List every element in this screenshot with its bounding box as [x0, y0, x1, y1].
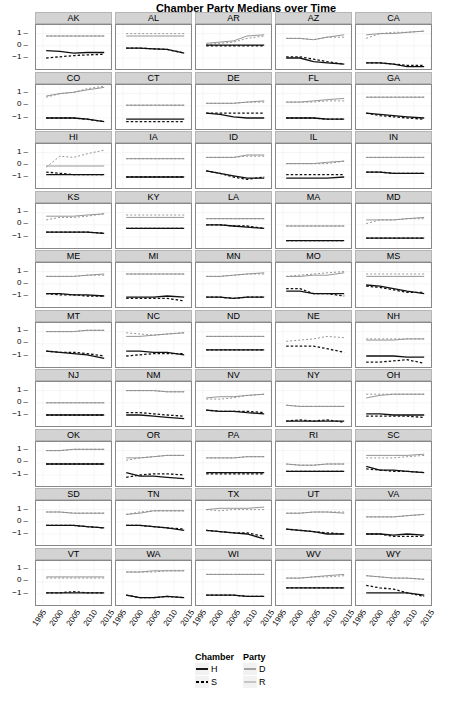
y-tick-label: −1 – [6, 528, 28, 537]
facet-panel-ar: AR [195, 12, 272, 70]
y-tick-label: 0 – [6, 337, 28, 346]
y-tick-label: 1 – [6, 28, 28, 37]
x-tick-label: 2000 [287, 608, 305, 628]
plot-area [35, 441, 112, 487]
plot-area [355, 203, 432, 249]
x-tick-label: 2000 [207, 608, 225, 628]
plot-area [115, 262, 192, 308]
x-tick-label: 2010 [402, 608, 420, 628]
facet-strip-label: TX [195, 488, 272, 500]
plot-area [195, 560, 272, 606]
y-tick-label: −1 – [6, 52, 28, 61]
plot-area [115, 381, 192, 427]
facet-strip-label: MT [35, 310, 112, 322]
facet-strip-label: NM [115, 369, 192, 381]
plot-area [355, 500, 432, 546]
facet-strip-label: CO [35, 72, 112, 84]
plot-area [275, 143, 352, 189]
series-hd [126, 415, 184, 419]
facet-panel-nh: NH [355, 310, 432, 368]
series-sr [286, 336, 344, 341]
plot-area [195, 441, 272, 487]
x-tick-label: 2010 [322, 608, 340, 628]
plot-area [275, 262, 352, 308]
y-tick-label: 1 – [6, 266, 28, 275]
plot-area [195, 24, 272, 70]
plot-area [35, 262, 112, 308]
plot-area [355, 24, 432, 70]
series-sr [286, 37, 344, 40]
plot-area [35, 24, 112, 70]
facet-panel-nm: NM [115, 369, 192, 427]
legend-item-d: D [243, 662, 266, 675]
series-sr [206, 274, 264, 276]
facet-panel-ga: GA [355, 72, 432, 130]
x-tick-label: 2000 [127, 608, 145, 628]
x-tick-label: 2005 [304, 608, 322, 628]
facet-strip-label: VT [35, 548, 112, 560]
series-sr [286, 575, 344, 577]
facet-panel-ks: KS [35, 191, 112, 249]
y-tick-label: 1 – [6, 385, 28, 394]
x-tick-label: 2000 [367, 608, 385, 628]
plot-area [195, 143, 272, 189]
facet-strip-label: NE [275, 310, 352, 322]
facet-panel-az: AZ [275, 12, 352, 70]
plot-area [35, 500, 112, 546]
plot-area [195, 203, 272, 249]
facet-strip-label: WY [355, 548, 432, 560]
facet-panel-ok: OK [35, 429, 112, 487]
facet-panel-nv: NV [195, 369, 272, 427]
plot-area [275, 500, 352, 546]
x-tick-label: 2005 [144, 608, 162, 628]
facet-panel-ak: AK [35, 12, 112, 70]
facet-strip-label: LA [195, 191, 272, 203]
facet-strip-label: NH [355, 310, 432, 322]
facet-panel-il: IL [275, 131, 352, 189]
x-tick-label: 2010 [242, 608, 260, 628]
plot-area [115, 84, 192, 130]
facet-strip-label: MS [355, 250, 432, 262]
series-sr [286, 464, 344, 465]
legend-label-r: R [259, 677, 266, 687]
facet-strip-label: TN [115, 488, 192, 500]
y-tick-label: 0 – [6, 159, 28, 168]
series-hd [46, 51, 104, 53]
facet-panel-fl: FL [275, 72, 352, 130]
plot-area [275, 441, 352, 487]
facet-strip-label: PA [195, 429, 272, 441]
facet-strip-label: MO [275, 250, 352, 262]
facet-panel-ia: IA [115, 131, 192, 189]
series-sr [366, 31, 424, 38]
facet-strip-label: SD [35, 488, 112, 500]
facet-panel-ca: CA [355, 12, 432, 70]
plot-area [195, 500, 272, 546]
y-tick-label: 1 – [6, 147, 28, 156]
plot-area [195, 84, 272, 130]
x-tick-label: 2005 [384, 608, 402, 628]
facet-strip-label: IN [355, 131, 432, 143]
x-tick-label: 1995 [30, 608, 48, 628]
facet-strip-label: ND [195, 310, 272, 322]
facet-panel-ma: MA [275, 191, 352, 249]
facet-strip-label: IL [275, 131, 352, 143]
legend-label-d: D [259, 664, 266, 674]
y-tick-label: 0 – [6, 575, 28, 584]
facet-panel-mt: MT [35, 310, 112, 368]
facet-strip-label: MA [275, 191, 352, 203]
y-tick-label: −1 – [6, 469, 28, 478]
plot-area [275, 84, 352, 130]
y-tick-label: 1 – [6, 504, 28, 513]
facet-panel-ct: CT [115, 72, 192, 130]
plot-area [35, 322, 112, 368]
series-sd [286, 346, 344, 352]
series-sd [126, 298, 184, 301]
y-tick-label: 0 – [6, 40, 28, 49]
facet-panel-nj: NJ [35, 369, 112, 427]
facet-panel-id: ID [195, 131, 272, 189]
plot-area [275, 203, 352, 249]
facet-strip-label: IA [115, 131, 192, 143]
series-sr [46, 86, 104, 97]
x-tick-label: 2015 [419, 608, 437, 628]
plot-area [195, 322, 272, 368]
